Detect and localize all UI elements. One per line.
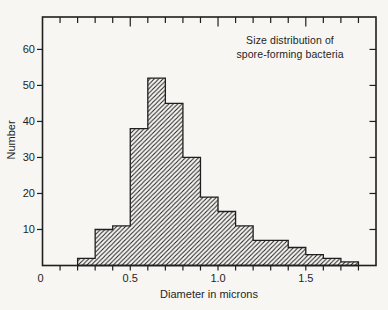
top-ticks [60,17,358,27]
x-tick-labels: 00.51.01.5 [37,272,313,284]
y-tick-label: 50 [23,79,35,91]
y-tick-label: 60 [23,43,35,55]
histogram-bars [78,78,359,265]
x-tick-label: 1.0 [210,272,225,284]
y-tick-label: 10 [23,223,35,235]
x-tick-label: 0 [37,272,43,284]
figure-container: 00.51.01.5 102030405060 Size distributio… [0,0,388,310]
x-tick-label: 1.5 [298,272,313,284]
x-axis-label: Diameter in microns [160,288,258,300]
chart-title-line2: spore-forming bacteria [200,48,380,62]
chart-title: Size distribution of spore-forming bacte… [200,34,380,61]
chart-title-line1: Size distribution of [200,34,380,48]
histogram-outline [78,78,359,265]
x-tick-label: 0.5 [123,272,138,284]
y-tick-labels: 102030405060 [23,43,35,235]
y-tick-label: 40 [23,115,35,127]
right-ticks [370,49,377,229]
y-axis-label: Number [5,120,17,159]
left-ticks [37,49,43,229]
y-tick-label: 30 [23,151,35,163]
y-tick-label: 20 [23,187,35,199]
